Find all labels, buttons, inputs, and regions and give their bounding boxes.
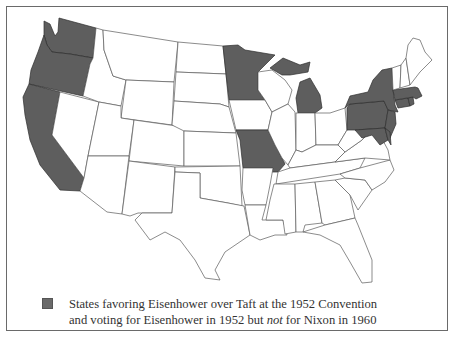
state-arkansas xyxy=(242,168,273,205)
state-iowa xyxy=(229,100,272,130)
state-pennsylvania xyxy=(347,101,388,130)
state-north-dakota xyxy=(176,42,226,74)
state-nebraska xyxy=(172,101,236,133)
state-arizona xyxy=(80,156,129,214)
state-michigan-upper xyxy=(270,58,310,75)
state-vermont xyxy=(392,65,401,90)
state-florida xyxy=(303,218,372,283)
us-states-map xyxy=(0,0,454,338)
state-new-mexico xyxy=(122,161,175,216)
state-wyoming xyxy=(121,80,174,125)
legend-line-2-emphasis: not xyxy=(267,313,283,327)
legend-text: States favoring Eisenhower over Taft at … xyxy=(69,296,377,328)
state-michigan-lower xyxy=(296,78,322,113)
legend-line-1: States favoring Eisenhower over Taft at … xyxy=(69,296,377,312)
legend-swatch xyxy=(42,298,53,309)
legend-line-2-start: and voting for Eisenhower in 1952 but xyxy=(69,313,267,327)
state-montana xyxy=(103,30,178,82)
legend-line-2: and voting for Eisenhower in 1952 but no… xyxy=(69,312,377,328)
state-kansas xyxy=(184,131,240,166)
state-maine xyxy=(406,38,432,85)
legend-line-2-end: for Nixon in 1960 xyxy=(283,313,377,327)
